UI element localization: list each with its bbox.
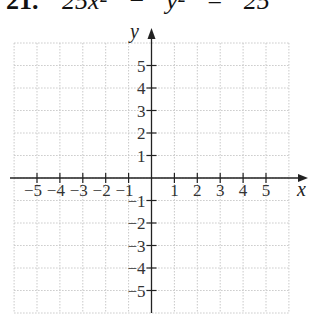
x-tick-label: 3	[216, 181, 225, 200]
y-tick-label: −5	[127, 282, 145, 301]
x-ticks: −5−4−3−2−112345	[24, 173, 270, 200]
x-tick-label: −3	[70, 181, 88, 200]
y-tick-label: −3	[127, 237, 145, 256]
y-tick-label: 3	[137, 102, 146, 121]
y-axis-arrow-icon	[148, 28, 156, 39]
y-tick-label: 2	[137, 124, 146, 143]
y-tick-label: 5	[137, 57, 146, 76]
y-tick-label: 4	[137, 79, 146, 98]
x-tick-label: 2	[193, 181, 202, 200]
x-tick-label: 4	[239, 181, 248, 200]
x-tick-label: −5	[24, 181, 42, 200]
y-tick-label: −2	[127, 214, 145, 233]
x-axis-label: x	[296, 178, 306, 200]
x-tick-label: −4	[47, 181, 66, 200]
y-tick-label: 1	[137, 147, 146, 166]
y-axis-label: y	[128, 20, 139, 43]
x-tick-label: −2	[93, 181, 111, 200]
x-tick-label: 1	[170, 181, 179, 200]
y-tick-label: −4	[127, 259, 146, 278]
coordinate-plane: −5−4−3−2−112345 54321−1−2−3−4−5 x y	[0, 0, 317, 319]
x-tick-label: 5	[262, 181, 271, 200]
y-tick-label: −1	[127, 192, 145, 211]
